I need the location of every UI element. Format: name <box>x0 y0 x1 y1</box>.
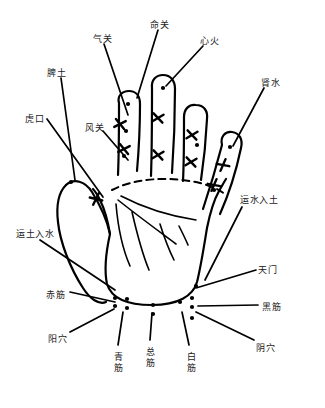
label-hukou: 虎口 <box>25 114 44 124</box>
leader-lines <box>40 30 264 345</box>
label-zongjin: 总筋 <box>145 347 155 369</box>
leader-yunshuirutu <box>205 207 242 280</box>
label-baijin: 白筋 <box>186 352 196 374</box>
label-yunshuirutu: 运水入土 <box>240 195 278 205</box>
leader-yunturushui <box>40 240 115 290</box>
hand-acupoint-diagram: 气关命关心火肾水脾土虎口风关运水入土运土入水天门赤筋黑筋阳穴阴穴青筋总筋白筋 <box>0 0 325 408</box>
leader-shenshui <box>233 88 264 146</box>
leader-yangxue <box>70 309 114 332</box>
leader-fengguan <box>103 131 128 160</box>
leader-qiguan <box>104 44 128 115</box>
label-shenshui: 肾水 <box>261 78 280 88</box>
label-yinxue: 阴穴 <box>256 343 275 353</box>
leader-mingguan <box>137 30 158 98</box>
label-yangxue: 阳穴 <box>48 334 67 344</box>
label-qingjin: 青筋 <box>113 352 123 374</box>
label-heijin: 黑筋 <box>262 302 281 312</box>
leader-heijin <box>198 305 258 306</box>
leader-xinhuo <box>166 46 203 86</box>
leader-pitu <box>61 78 75 180</box>
leader-yinxue <box>196 312 254 340</box>
label-fengguan: 风关 <box>85 123 104 133</box>
label-mingguan: 命关 <box>150 20 169 30</box>
leader-chijin <box>70 292 115 302</box>
leader-zongjin <box>150 313 152 340</box>
label-xinhuo: 心火 <box>200 36 219 46</box>
leader-baijin <box>182 312 189 345</box>
leader-qingjin <box>118 312 123 345</box>
label-yunturushui: 运土入水 <box>16 229 54 239</box>
label-tianmen: 天门 <box>258 265 277 275</box>
label-pitu: 脾土 <box>47 68 66 78</box>
label-chijin: 赤筋 <box>46 290 65 300</box>
label-qiguan: 气关 <box>93 34 112 44</box>
